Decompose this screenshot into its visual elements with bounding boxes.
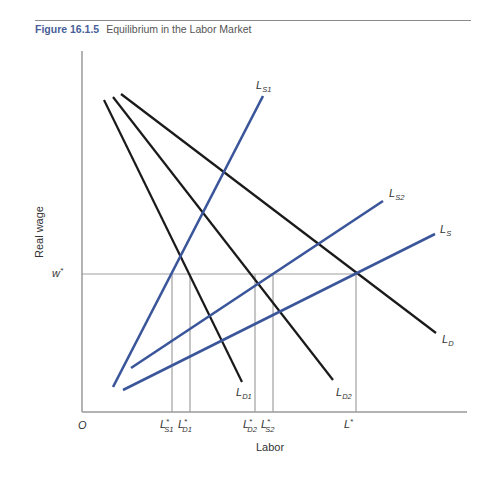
curve-label-l_d1: LD1	[236, 386, 252, 401]
x-tick-label: L*D1	[178, 417, 192, 434]
curve-label-l_s: LS	[440, 223, 451, 238]
y-axis-label: Real wage	[33, 206, 45, 258]
demand-curve-l_d2	[113, 97, 333, 380]
supply-curve-l_s1	[113, 96, 263, 387]
x-tick-label: L*S2	[261, 417, 275, 434]
x-tick-label: L*D2	[243, 417, 258, 434]
x-tick-label: L*	[344, 417, 353, 430]
w-star-label: w*	[52, 266, 64, 279]
curve-label-l_d2: LD2	[336, 386, 353, 401]
curve-label-l_s1: LS1	[256, 79, 271, 94]
x-axis-label: Labor	[256, 441, 284, 453]
curve-label-l_s2: LS2	[389, 187, 405, 202]
labor-market-chart: LD1LD2LDLS1LS2LSL*S1L*D1L*D2L*S2L*Ow*Lab…	[0, 0, 487, 480]
supply-curve-l_s2	[131, 201, 383, 368]
demand-curve-l_d	[121, 94, 436, 333]
x-tick-label: L*S1	[160, 417, 173, 434]
origin-label: O	[78, 419, 87, 431]
supply-curve-l_s	[123, 234, 435, 390]
curve-label-l_d: LD	[442, 333, 454, 348]
